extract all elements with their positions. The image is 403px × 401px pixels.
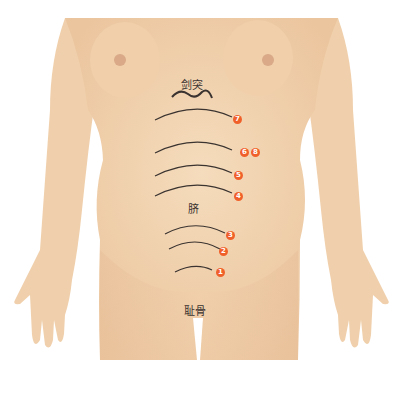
marker-4: 4: [234, 192, 243, 201]
pubis-label: 耻骨: [184, 302, 206, 318]
marker-7: 7: [233, 115, 242, 124]
marker-5: 5: [234, 171, 243, 180]
xiphoid-label: 剑突: [181, 76, 203, 92]
marker-1: 1: [216, 268, 225, 277]
marker-8: 8: [251, 148, 260, 157]
navel-label: 脐: [188, 200, 199, 216]
marker-2: 2: [219, 247, 228, 256]
marker-6: 6: [240, 148, 249, 157]
body-illustration: [0, 0, 403, 401]
pregnancy-body-diagram: 剑突 脐 耻骨 7 6 8 5 4 3 2 1: [0, 0, 403, 401]
right-breast: [223, 20, 293, 96]
marker-3: 3: [226, 231, 235, 240]
